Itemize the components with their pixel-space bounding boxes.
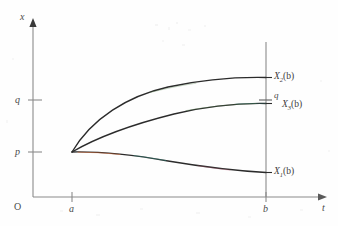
curve-label-x3-arg: (b) xyxy=(291,99,302,109)
y-tick-label-q: q xyxy=(15,95,20,105)
curve-label-x1-arg: (b) xyxy=(283,166,294,176)
y-axis-arrowhead xyxy=(29,18,36,27)
origin-label: O xyxy=(14,202,21,212)
curve-x1-fringe-warm xyxy=(78,152,120,154)
figure-canvas: x t O q p a b q X2(b) X3(b) X1(b) xyxy=(0,0,338,226)
curve-x3-fringe-teal xyxy=(236,103,266,104)
x-axis-arrowhead xyxy=(318,193,327,200)
q-marker-label: q xyxy=(274,91,279,100)
x-axis-label: t xyxy=(322,203,325,213)
x-tick-label-a: a xyxy=(69,204,74,214)
curve-x1 xyxy=(72,152,266,173)
curve-label-x2-arg: (b) xyxy=(283,71,294,81)
curve-x1-fringe-cool xyxy=(134,156,166,161)
y-tick-label-p: p xyxy=(15,147,20,157)
x-tick-label-b: b xyxy=(263,204,268,214)
curve-label-x3: X3(b) xyxy=(282,100,302,111)
curve-label-x1: X1(b) xyxy=(274,167,294,178)
curve-x1-fringe-magenta xyxy=(198,166,230,170)
curve-x2-fringe-green xyxy=(150,83,196,92)
y-axis-label: x xyxy=(20,12,24,22)
curve-x3 xyxy=(72,103,266,152)
curve-label-x2: X2(b) xyxy=(274,72,294,83)
plot-area xyxy=(0,0,338,226)
